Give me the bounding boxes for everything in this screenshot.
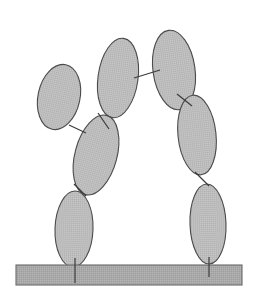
ground-bar	[16, 265, 242, 285]
figure-root: Articulated rigid-body chain of ellipses…	[0, 0, 255, 296]
articulated-body-diagram	[0, 0, 255, 296]
